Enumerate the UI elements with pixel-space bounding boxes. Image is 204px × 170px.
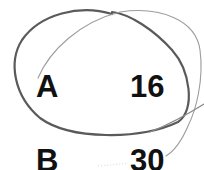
row-a-value: 16: [130, 71, 164, 102]
faint-smudge-stroke: [98, 163, 128, 166]
row-b-value: 30: [130, 145, 164, 170]
row-b-label: B: [36, 145, 58, 170]
hand-drawn-sketch: [0, 0, 204, 170]
row-a-label: A: [36, 71, 58, 102]
crossing-line-stroke: [150, 104, 204, 132]
